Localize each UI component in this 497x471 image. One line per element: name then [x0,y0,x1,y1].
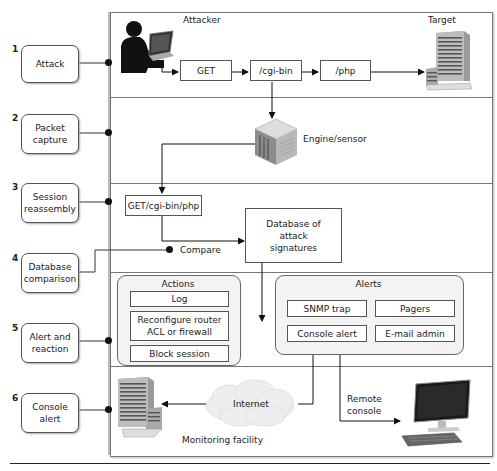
remote-console-computer-icon [398,378,476,450]
request-php: /php [320,60,371,81]
engine-sensor-label: Engine/sensor [303,133,367,145]
step-console-alert: Console alert [21,393,79,433]
step-session-reassembly: Session reassembly [21,183,79,223]
remote-console-label: Remote console [347,393,387,417]
connector-dot-attack [105,59,112,66]
connector-dot-capture [105,129,112,136]
step-number-3: 3 [12,182,18,192]
monitoring-facility-label: Monitoring facility [182,434,263,446]
attacker-label: Attacker [183,14,221,26]
alert-console-alert: Console alert [287,325,367,342]
action-log: Log [130,291,229,307]
connector-dot-compare [166,246,173,253]
action-reconfigure: Reconfigure router ACL or firewall [130,311,229,341]
action-block-session: Block session [130,345,229,362]
step-number-6: 6 [12,393,18,403]
step-number-5: 5 [12,323,18,333]
connector-dot-reassembly [105,198,112,205]
connector-dot-console [105,406,112,413]
bottom-rule [10,463,490,464]
step-number-1: 1 [12,44,18,54]
attacker-icon [118,18,176,73]
target-building-icon [424,29,476,91]
alert-pagers: Pagers [375,300,455,317]
step-number-4: 4 [12,253,18,263]
actions-title: Actions [117,278,239,290]
alerts-title: Alerts [275,278,462,290]
request-cgi-bin: /cgi-bin [250,60,302,81]
internet-label: Internet [233,398,269,410]
alert-email-admin: E-mail admin [375,325,455,342]
engine-sensor-icon [254,118,298,166]
request-get: GET [180,60,232,81]
step-alert-and-reaction: Alert and reaction [21,323,79,363]
step-packet-capture: Packet capture [21,114,79,154]
target-label: Target [428,14,456,26]
monitoring-building-icon [114,375,164,439]
signature-database-box: Database of attack signatures [245,208,342,263]
step-number-2: 2 [12,113,18,123]
connector-dot-reaction [105,337,112,344]
step-database-comparison: Database comparison [21,253,79,293]
alert-snmp-trap: SNMP trap [287,300,367,317]
session-string-box: GET/cgi-bin/php [125,195,202,216]
compare-label: Compare [180,244,221,256]
step-attack: Attack [21,45,79,83]
